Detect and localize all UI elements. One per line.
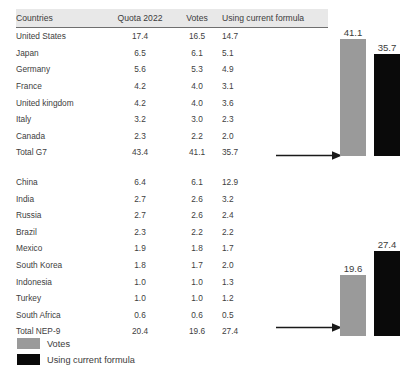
table-header-row: Countries Quota 2022 Votes Using current… xyxy=(16,9,328,28)
cell-votes: 6.1 xyxy=(172,45,222,62)
table-row: France4.24.03.1 xyxy=(16,78,328,95)
cell-quota: 6.4 xyxy=(108,174,172,191)
column-header-quota: Quota 2022 xyxy=(108,9,172,28)
bar-chart-total-nep9: 19.6 27.4 xyxy=(332,238,406,336)
table-row: China6.46.112.9 xyxy=(16,174,328,191)
cell-votes: 19.6 xyxy=(172,323,222,340)
cell-votes: 2.6 xyxy=(172,190,222,207)
table-body: United States17.416.514.7Japan6.56.15.1G… xyxy=(16,28,328,340)
legend-label-votes: Votes xyxy=(47,339,70,349)
bar-label-nep9-formula: 27.4 xyxy=(368,239,406,250)
cell-quota: 5.6 xyxy=(108,61,172,78)
cell-votes: 16.5 xyxy=(172,28,222,45)
cell-quota: 6.5 xyxy=(108,45,172,62)
cell-quota: 2.7 xyxy=(108,190,172,207)
cell-formula: 14.7 xyxy=(222,28,328,45)
cell-country: France xyxy=(16,78,108,95)
bar-g7-formula xyxy=(374,54,400,156)
cell-country: Russia xyxy=(16,207,108,224)
cell-votes: 1.7 xyxy=(172,257,222,274)
cell-country: United kingdom xyxy=(16,94,108,111)
legend-swatch-votes-icon xyxy=(17,338,40,349)
legend-label-formula: Using current formula xyxy=(47,355,135,365)
cell-country: Canada xyxy=(16,128,108,145)
cell-country: South Africa xyxy=(16,307,108,324)
cell-votes: 4.0 xyxy=(172,94,222,111)
cell-votes: 1.0 xyxy=(172,273,222,290)
chart-legend: Votes Using current formula xyxy=(17,338,135,370)
cell-formula: 3.1 xyxy=(222,78,328,95)
cell-formula: 1.2 xyxy=(222,290,328,307)
cell-formula: 12.9 xyxy=(222,174,328,191)
table-row: United kingdom4.24.03.6 xyxy=(16,94,328,111)
quota-table-panel: Countries Quota 2022 Votes Using current… xyxy=(16,9,328,340)
table-row: Turkey1.01.01.2 xyxy=(16,290,328,307)
cell-votes: 2.2 xyxy=(172,224,222,241)
column-header-formula: Using current formula xyxy=(222,9,328,28)
cell-country: India xyxy=(16,190,108,207)
cell-quota: 2.3 xyxy=(108,128,172,145)
column-header-countries: Countries xyxy=(16,9,108,28)
quota-table: Countries Quota 2022 Votes Using current… xyxy=(16,9,328,340)
bar-label-g7-formula: 35.7 xyxy=(368,42,406,53)
table-spacer-row xyxy=(16,161,328,174)
bar-nep9-formula xyxy=(374,251,400,336)
legend-item-votes: Votes xyxy=(17,338,135,349)
cell-formula: 2.3 xyxy=(222,111,328,128)
table-row: Germany5.65.34.9 xyxy=(16,61,328,78)
cell-quota: 2.7 xyxy=(108,207,172,224)
cell-formula: 3.2 xyxy=(222,190,328,207)
cell-country: Japan xyxy=(16,45,108,62)
bar-label-nep9-votes: 19.6 xyxy=(334,263,372,274)
table-row: Indonesia1.01.01.3 xyxy=(16,273,328,290)
column-header-votes: Votes xyxy=(172,9,222,28)
cell-votes: 3.0 xyxy=(172,111,222,128)
cell-country: Brazil xyxy=(16,224,108,241)
cell-quota: 43.4 xyxy=(108,144,172,161)
cell-quota: 4.2 xyxy=(108,94,172,111)
cell-votes: 41.1 xyxy=(172,144,222,161)
cell-votes: 4.0 xyxy=(172,78,222,95)
cell-votes: 6.1 xyxy=(172,174,222,191)
cell-votes: 5.3 xyxy=(172,61,222,78)
table-row: Canada2.32.22.0 xyxy=(16,128,328,145)
cell-formula: 1.7 xyxy=(222,240,328,257)
cell-formula: 1.3 xyxy=(222,273,328,290)
legend-swatch-formula-icon xyxy=(17,354,40,365)
cell-country: Indonesia xyxy=(16,273,108,290)
cell-votes: 0.6 xyxy=(172,307,222,324)
cell-formula: 2.0 xyxy=(222,257,328,274)
cell-country: Mexico xyxy=(16,240,108,257)
table-row: Italy3.23.02.3 xyxy=(16,111,328,128)
cell-quota: 0.6 xyxy=(108,307,172,324)
bar-chart-total-g7: 41.1 35.7 xyxy=(332,26,406,156)
table-row: Russia2.72.62.4 xyxy=(16,207,328,224)
cell-votes: 2.2 xyxy=(172,128,222,145)
cell-votes: 2.6 xyxy=(172,207,222,224)
cell-quota: 1.9 xyxy=(108,240,172,257)
cell-formula: 2.2 xyxy=(222,224,328,241)
table-row: India2.72.63.2 xyxy=(16,190,328,207)
cell-votes: 1.8 xyxy=(172,240,222,257)
cell-country: Germany xyxy=(16,61,108,78)
cell-quota: 17.4 xyxy=(108,28,172,45)
cell-quota: 1.8 xyxy=(108,257,172,274)
bar-label-g7-votes: 41.1 xyxy=(334,27,372,38)
cell-country: Total G7 xyxy=(16,144,108,161)
table-row: South Korea1.81.72.0 xyxy=(16,257,328,274)
cell-quota: 3.2 xyxy=(108,111,172,128)
cell-quota: 2.3 xyxy=(108,224,172,241)
cell-formula: 3.6 xyxy=(222,94,328,111)
cell-country: United States xyxy=(16,28,108,45)
bar-nep9-votes xyxy=(340,275,366,336)
table-row: Mexico1.91.81.7 xyxy=(16,240,328,257)
cell-country: China xyxy=(16,174,108,191)
cell-formula: 5.1 xyxy=(222,45,328,62)
table-row: Japan6.56.15.1 xyxy=(16,45,328,62)
cell-country: Turkey xyxy=(16,290,108,307)
cell-quota: 1.0 xyxy=(108,290,172,307)
cell-formula: 4.9 xyxy=(222,61,328,78)
cell-formula: 2.0 xyxy=(222,128,328,145)
table-header: Countries Quota 2022 Votes Using current… xyxy=(16,9,328,28)
cell-country: South Korea xyxy=(16,257,108,274)
